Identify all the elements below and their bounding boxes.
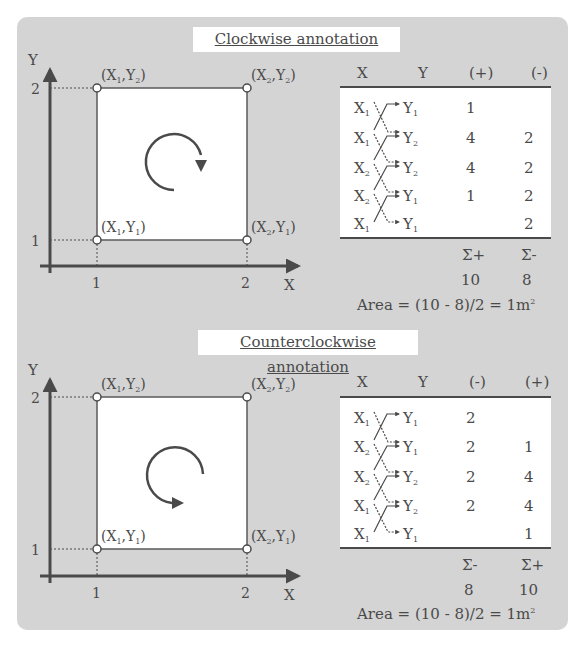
svg-text:X: X (284, 276, 295, 294)
svg-text:(+): (+) (525, 373, 549, 391)
svg-text:Σ-: Σ- (521, 246, 537, 264)
svg-text:1: 1 (92, 275, 101, 291)
svg-text:(+): (+) (469, 64, 493, 82)
svg-text:(-): (-) (469, 373, 486, 391)
clockwise-plot (40, 70, 298, 273)
svg-text:4: 4 (466, 129, 476, 147)
svg-text:Y: Y (417, 64, 429, 82)
svg-text:1: 1 (31, 233, 40, 249)
svg-text:(X2,Y2): (X2,Y2) (251, 67, 296, 85)
svg-text:8: 8 (464, 581, 474, 599)
svg-text:(-): (-) (531, 64, 548, 82)
svg-text:(X1,Y2): (X1,Y2) (101, 376, 146, 394)
svg-text:2: 2 (466, 409, 476, 427)
svg-text:8: 8 (522, 271, 532, 289)
svg-text:Σ+: Σ+ (462, 246, 485, 264)
svg-text:Area = (10 - 8)/2 = 1m2: Area = (10 - 8)/2 = 1m2 (356, 296, 535, 314)
svg-text:4: 4 (524, 468, 534, 486)
diagram-svg: Y 2 1 1 2 X (X1,Y2) (X2,Y2) (X1,Y1) (X2,… (0, 0, 585, 645)
svg-text:1: 1 (92, 585, 101, 601)
svg-text:1: 1 (31, 542, 40, 558)
svg-text:Area = (10 - 8)/2 = 1m2: Area = (10 - 8)/2 = 1m2 (356, 605, 535, 623)
svg-text:X: X (357, 373, 368, 391)
svg-text:2: 2 (466, 497, 476, 515)
svg-text:2: 2 (524, 159, 534, 177)
y-axis-label: Y (27, 51, 39, 69)
svg-text:Y: Y (417, 373, 429, 391)
svg-text:2: 2 (524, 215, 534, 233)
svg-text:2: 2 (241, 585, 250, 601)
svg-text:Σ+: Σ+ (521, 556, 544, 574)
counterclockwise-table (340, 397, 551, 548)
clockwise-table (340, 87, 551, 238)
svg-text:2: 2 (31, 81, 40, 97)
svg-text:Y: Y (27, 361, 39, 379)
svg-text:2: 2 (31, 390, 40, 406)
svg-text:4: 4 (524, 497, 534, 515)
svg-text:1: 1 (524, 525, 534, 543)
svg-text:Σ-: Σ- (462, 556, 478, 574)
svg-text:10: 10 (519, 581, 538, 599)
svg-text:2: 2 (241, 275, 250, 291)
svg-text:1: 1 (466, 99, 476, 117)
svg-text:2: 2 (524, 129, 534, 147)
svg-text:4: 4 (466, 159, 476, 177)
svg-text:2: 2 (466, 468, 476, 486)
svg-text:(X2,Y1): (X2,Y1) (251, 528, 296, 546)
svg-text:(X2,Y2): (X2,Y2) (251, 376, 296, 394)
svg-text:(X1,Y2): (X1,Y2) (101, 67, 146, 85)
svg-text:X: X (284, 586, 295, 604)
counterclockwise-plot (40, 380, 298, 583)
svg-text:2: 2 (466, 438, 476, 456)
svg-text:(X2,Y1): (X2,Y1) (251, 219, 296, 237)
svg-text:10: 10 (461, 271, 480, 289)
svg-text:1: 1 (524, 438, 534, 456)
svg-text:2: 2 (524, 187, 534, 205)
svg-text:1: 1 (466, 187, 476, 205)
svg-text:X: X (357, 64, 368, 82)
